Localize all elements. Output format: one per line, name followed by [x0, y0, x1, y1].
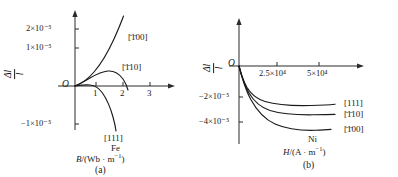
- origin-label-a: O: [62, 80, 69, 90]
- x-axis-unit-b: /(A · m: [290, 147, 316, 157]
- curve-label-b-111: [111]: [344, 99, 363, 108]
- y-tick-label-a-1: 1×10⁻⁵: [26, 43, 52, 52]
- curve-a-100: [75, 16, 124, 86]
- x-axis-unit-a: /(Wb · m: [82, 154, 115, 164]
- caption-a: (a): [95, 166, 106, 176]
- x-axis-arrow-b: [357, 63, 364, 68]
- x-tick-label-a-0: 1: [93, 89, 98, 98]
- x-tick-label-a-2: 3: [147, 89, 152, 98]
- curve-label-b-110: [̄1̄10]: [344, 110, 363, 119]
- x-axis-label-b: H/(A · m−1): [283, 148, 325, 157]
- x-axis-close-a: ): [121, 154, 124, 164]
- y-axis-arrow-b: [236, 18, 241, 25]
- y-axis-label-a-denominator: l: [15, 69, 26, 79]
- y-tick-label-b-1: −4×10⁻⁵: [199, 117, 229, 126]
- curve-label-a-100: [̄1̄00]: [128, 33, 148, 42]
- y-axis-label-b-numerator: Δl: [202, 63, 214, 73]
- x-tick-label-a-1: 2: [120, 89, 125, 98]
- y-axis-label-b: Δl l: [202, 63, 226, 73]
- y-tick-label-a-2: −1×10⁻⁵: [21, 119, 51, 128]
- y-axis-arrow-a: [72, 10, 77, 17]
- material-label-b: Ni: [308, 135, 317, 144]
- y-axis-label-b-denominator: l: [214, 63, 225, 73]
- y-axis-label-a: Δl l: [3, 69, 27, 79]
- panel-a-iron: Δl l O 2×10⁻⁵ 1×10⁻⁵ −1×10⁻⁵ 1 2 3 [̄1̄0…: [0, 0, 199, 177]
- x-tick-label-b-1: 5×10⁴: [307, 69, 328, 78]
- magnetostriction-figure: Δl l O 2×10⁻⁵ 1×10⁻⁵ −1×10⁻⁵ 1 2 3 [̄1̄0…: [0, 0, 398, 177]
- origin-label-b: O: [228, 59, 235, 69]
- y-tick-label-b-0: −2×10⁻⁵: [199, 92, 229, 101]
- y-axis-label-a-numerator: Δl: [3, 69, 15, 79]
- panel-b-nickel: Δl l O 2.5×10⁴ 5×10⁴ −2×10⁻⁵ −4×10⁻⁵ [11…: [199, 0, 398, 177]
- x-tick-label-b-0: 2.5×10⁴: [259, 69, 286, 78]
- x-axis-close-b: ): [322, 147, 325, 157]
- caption-b: (b): [303, 161, 314, 171]
- curve-label-a-110: [̄1̄10]: [122, 63, 141, 72]
- x-axis-arrow-a: [168, 83, 175, 88]
- curve-label-b-100: [̄1̄00]: [344, 125, 364, 134]
- x-axis-label-a: B/(Wb · m−1): [76, 155, 124, 164]
- curve-label-a-111: [111]: [104, 134, 123, 143]
- y-tick-label-a-0: 2×10⁻⁵: [26, 24, 52, 33]
